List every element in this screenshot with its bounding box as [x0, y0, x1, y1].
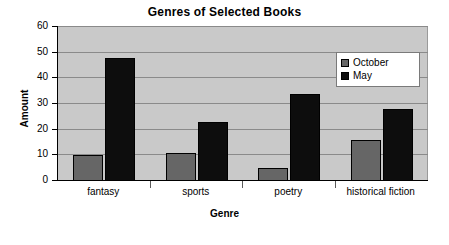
- legend-swatch-icon-may: [341, 72, 349, 80]
- bar-may-historical-fiction: [383, 109, 413, 181]
- y-tick-label: 0: [0, 174, 48, 185]
- x-axis-baseline: [58, 180, 428, 181]
- y-tick-label: 10: [0, 148, 48, 159]
- bar-may-poetry: [290, 94, 320, 181]
- category-divider-tick: [242, 181, 243, 188]
- gridline: [58, 26, 428, 27]
- y-tick-label: 50: [0, 46, 48, 57]
- category-divider-tick: [335, 181, 336, 188]
- bar-october-historical-fiction: [351, 140, 381, 181]
- x-tick-label: historical fiction: [321, 186, 441, 197]
- legend-item-may: May: [341, 69, 415, 82]
- legend-swatch-icon-october: [341, 59, 349, 67]
- x-axis-label: Genre: [0, 208, 449, 219]
- legend-label-october: October: [353, 58, 389, 68]
- bar-october-fantasy: [73, 155, 103, 181]
- y-tick-label: 20: [0, 123, 48, 134]
- chart-title: Genres of Selected Books: [0, 5, 449, 19]
- legend-item-october: October: [341, 56, 415, 69]
- bar-october-sports: [166, 153, 196, 181]
- legend-label-may: May: [353, 71, 372, 81]
- bar-may-fantasy: [105, 58, 135, 181]
- y-tick-label: 60: [0, 20, 48, 31]
- chart-legend: October May: [336, 52, 420, 87]
- y-tick-label: 30: [0, 97, 48, 108]
- y-tick-label: 40: [0, 71, 48, 82]
- category-divider-tick: [150, 181, 151, 188]
- bar-may-sports: [198, 122, 228, 181]
- bar-chart: Genres of Selected Books Amount 01020304…: [0, 0, 449, 245]
- plot-area: [57, 26, 428, 181]
